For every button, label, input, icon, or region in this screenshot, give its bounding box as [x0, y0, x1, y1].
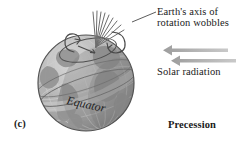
solar-radiation-label: Solar radiation [157, 66, 221, 77]
axis-label-leader-line [132, 12, 156, 22]
solar-radiation-arrow-lower [171, 56, 236, 66]
globe-terminator-shadow [62, 46, 152, 138]
figure-caption: Precession [168, 119, 216, 130]
axis-wobble-line1: Earth's axis of [157, 6, 218, 17]
precession-figure: Equator Earth's axis ofrotation wobbles … [0, 0, 252, 144]
solar-radiation-arrow-upper [163, 45, 228, 55]
panel-letter-label: (c) [14, 118, 26, 129]
axis-wobble-line2: rotation wobbles [157, 17, 229, 28]
globe [33, 25, 152, 141]
axis-wobble-annotation: Earth's axis ofrotation wobbles [157, 6, 229, 28]
